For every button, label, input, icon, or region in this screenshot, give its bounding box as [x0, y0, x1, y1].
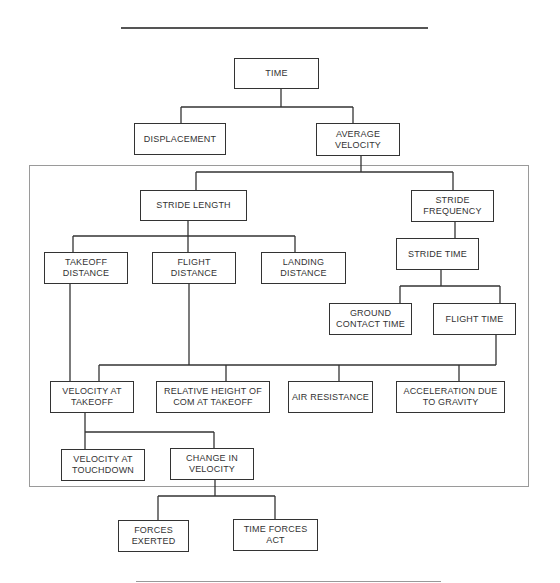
node-ground-contact-time: GROUND CONTACT TIME [329, 303, 412, 335]
node-velocity-at-takeoff: VELOCITY AT TAKEOFF [50, 381, 134, 413]
node-time-forces-act: TIME FORCES ACT [233, 519, 318, 551]
node-forces-exerted: FORCES EXERTED [118, 520, 189, 552]
node-takeoff-distance: TAKEOFF DISTANCE [44, 252, 128, 284]
node-flight-distance: FLIGHT DISTANCE [152, 252, 236, 284]
node-stride-frequency: STRIDE FREQUENCY [411, 190, 494, 222]
node-flight-time: FLIGHT TIME [433, 303, 516, 335]
node-relative-height-com: RELATIVE HEIGHT OF COM AT TAKEOFF [156, 381, 270, 413]
node-time: TIME [234, 58, 319, 89]
node-air-resistance: AIR RESISTANCE [288, 381, 373, 413]
node-average-velocity: AVERAGE VELOCITY [316, 123, 400, 156]
node-stride-time: STRIDE TIME [396, 238, 479, 270]
node-velocity-at-touchdown: VELOCITY AT TOUCHDOWN [61, 449, 145, 481]
node-displacement: DISPLACEMENT [134, 123, 226, 155]
node-stride-length: STRIDE LENGTH [140, 190, 247, 221]
node-acceleration-gravity: ACCELERATION DUE TO GRAVITY [396, 381, 505, 413]
node-change-in-velocity: CHANGE IN VELOCITY [170, 448, 254, 480]
node-landing-distance: LANDING DISTANCE [261, 252, 346, 284]
bottom-divider [136, 581, 441, 582]
